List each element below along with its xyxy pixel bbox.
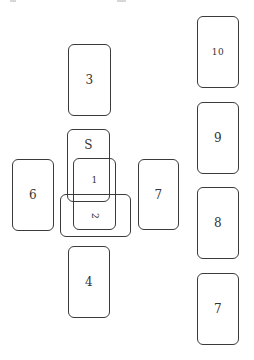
- card-label: S: [68, 138, 109, 152]
- card-7: 7: [197, 273, 239, 345]
- clipped-text-fragment: [117, 0, 126, 2]
- card-2-crossing: 2: [60, 194, 131, 237]
- card-label: 7: [214, 302, 222, 316]
- card-6: 7: [138, 159, 179, 230]
- card-8: 8: [197, 187, 239, 259]
- card-label: 9: [214, 131, 222, 145]
- card-3: 3: [68, 44, 111, 116]
- card-label: 4: [85, 275, 93, 289]
- card-label: 10: [212, 47, 224, 57]
- card-4: 4: [68, 246, 110, 318]
- card-9: 9: [197, 102, 239, 174]
- card-label: 2: [90, 212, 100, 218]
- card-label: 3: [85, 73, 93, 87]
- card-label: 7: [154, 188, 162, 202]
- card-label: 1: [74, 175, 115, 185]
- card-10: 10: [197, 16, 239, 88]
- card-label: 6: [29, 188, 37, 202]
- card-label: 8: [214, 216, 222, 230]
- card-5: 6: [12, 159, 54, 231]
- clipped-text-fragment: [10, 0, 16, 2]
